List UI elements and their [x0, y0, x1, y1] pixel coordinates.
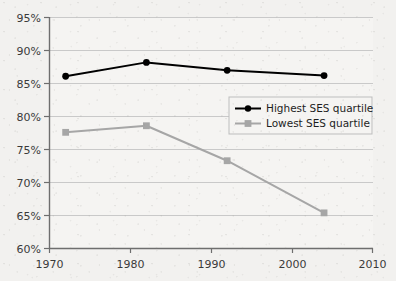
- data-point-lowest-2004: [321, 209, 328, 216]
- line-chart: 95% 90% 85% 80% 75% 70% 65% 60% 1970 198…: [0, 0, 396, 281]
- x-axis-label-1970: 1970: [36, 258, 64, 271]
- x-axis-label-1990: 1990: [198, 258, 226, 271]
- y-axis-label-60: 60%: [17, 243, 41, 256]
- y-axis-label-90: 90%: [17, 45, 41, 58]
- legend-label-lowest: Lowest SES quartile: [266, 117, 370, 129]
- y-axis-label-80: 80%: [17, 111, 41, 124]
- legend-label-highest: Highest SES quartile: [266, 102, 373, 114]
- y-axis-label-65: 65%: [17, 210, 41, 223]
- y-axis-label-95: 95%: [17, 12, 41, 25]
- data-point-highest-2004: [321, 72, 328, 79]
- chart-container: 95% 90% 85% 80% 75% 70% 65% 60% 1970 198…: [0, 0, 396, 281]
- legend-marker-square-icon: [245, 120, 252, 127]
- y-axis-label-75: 75%: [17, 144, 41, 157]
- x-axis-label-2010: 2010: [359, 258, 387, 271]
- data-point-lowest-1972: [62, 129, 69, 136]
- data-point-highest-1992: [224, 67, 231, 74]
- data-point-highest-1972: [62, 73, 69, 80]
- x-axis-label-2000: 2000: [279, 258, 307, 271]
- y-axis-label-85: 85%: [17, 78, 41, 91]
- legend-marker-circle-icon: [245, 105, 251, 111]
- data-point-lowest-1982: [143, 122, 150, 129]
- data-point-lowest-1992: [224, 157, 231, 164]
- legend: Highest SES quartile Lowest SES quartile: [229, 97, 373, 134]
- y-axis-label-70: 70%: [17, 177, 41, 190]
- x-axis-label-1980: 1980: [117, 258, 145, 271]
- data-point-highest-1982: [143, 59, 150, 66]
